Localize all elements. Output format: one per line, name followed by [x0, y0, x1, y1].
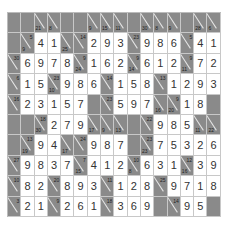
entry-cell[interactable]: 9	[168, 176, 181, 196]
entry-cell[interactable]: 9	[74, 176, 87, 196]
entry-cell[interactable]: 6	[207, 135, 220, 155]
entry-cell[interactable]: 6	[74, 197, 87, 217]
entry-cell[interactable]: 9	[35, 54, 48, 74]
entry-cell[interactable]: 1	[88, 197, 101, 217]
entry-cell[interactable]: 7	[114, 135, 127, 155]
entry-cell[interactable]: 8	[141, 74, 154, 94]
clue-cell: 20	[48, 176, 61, 196]
entry-cell[interactable]: 3	[194, 156, 207, 176]
entry-cell[interactable]: 6	[141, 156, 154, 176]
entry-cell[interactable]: 2	[114, 54, 127, 74]
entry-cell[interactable]: 1	[21, 74, 34, 94]
entry-cell[interactable]: 9	[101, 33, 114, 53]
entry-cell[interactable]: 2	[48, 115, 61, 135]
entry-cell[interactable]: 7	[141, 95, 154, 115]
entry-cell[interactable]: 8	[61, 176, 74, 196]
entry-cell[interactable]: 9	[61, 74, 74, 94]
entry-cell[interactable]: 7	[74, 95, 87, 115]
entry-cell[interactable]: 1	[181, 95, 194, 115]
entry-cell[interactable]: 3	[114, 197, 127, 217]
entry-cell[interactable]: 1	[207, 33, 220, 53]
entry-cell[interactable]: 8	[141, 176, 154, 196]
entry-cell[interactable]: 1	[194, 176, 207, 196]
entry-cell[interactable]: 2	[181, 74, 194, 94]
entry-cell[interactable]: 5	[194, 197, 207, 217]
entry-cell[interactable]: 2	[61, 197, 74, 217]
entry-cell[interactable]: 6	[128, 197, 141, 217]
clue-cell: 14	[101, 74, 114, 94]
entry-cell[interactable]: 3	[181, 135, 194, 155]
entry-cell[interactable]: 1	[114, 176, 127, 196]
entry-cell[interactable]: 1	[101, 156, 114, 176]
entry-cell[interactable]: 7	[181, 176, 194, 196]
entry-cell[interactable]: 7	[61, 156, 74, 176]
entry-cell[interactable]: 8	[74, 74, 87, 94]
entry-cell[interactable]: 1	[48, 95, 61, 115]
entry-cell[interactable]: 8	[154, 33, 167, 53]
entry-cell[interactable]: 9	[128, 95, 141, 115]
entry-cell[interactable]: 9	[181, 197, 194, 217]
entry-cell[interactable]: 7	[194, 54, 207, 74]
entry-cell[interactable]: 8	[21, 176, 34, 196]
clue-cell: 11	[101, 176, 114, 196]
entry-cell[interactable]: 3	[114, 33, 127, 53]
entry-cell[interactable]: 7	[61, 115, 74, 135]
entry-cell[interactable]: 8	[194, 95, 207, 115]
entry-cell[interactable]: 5	[61, 95, 74, 115]
entry-cell[interactable]: 5	[181, 115, 194, 135]
entry-cell[interactable]: 4	[194, 33, 207, 53]
entry-cell[interactable]: 1	[114, 74, 127, 94]
entry-cell[interactable]: 1	[35, 197, 48, 217]
entry-cell[interactable]: 8	[35, 156, 48, 176]
entry-cell[interactable]: 2	[128, 176, 141, 196]
entry-cell[interactable]: 9	[141, 197, 154, 217]
entry-cell[interactable]: 2	[207, 54, 220, 74]
entry-cell[interactable]: 4	[48, 135, 61, 155]
entry-cell[interactable]: 8	[101, 135, 114, 155]
entry-cell[interactable]: 5	[168, 135, 181, 155]
entry-cell[interactable]: 6	[101, 54, 114, 74]
entry-cell[interactable]: 3	[35, 95, 48, 115]
clue-cell: 6	[8, 74, 21, 94]
entry-cell[interactable]: 1	[88, 54, 101, 74]
entry-cell[interactable]: 4	[88, 156, 101, 176]
entry-cell[interactable]: 1	[48, 33, 61, 53]
clue-cell: 16	[154, 95, 167, 115]
entry-cell[interactable]: 9	[154, 115, 167, 135]
entry-cell[interactable]: 2	[114, 156, 127, 176]
entry-cell[interactable]: 1	[168, 74, 181, 94]
entry-cell[interactable]: 7	[154, 135, 167, 155]
entry-cell[interactable]: 5	[35, 74, 48, 94]
entry-cell[interactable]: 3	[154, 156, 167, 176]
entry-cell[interactable]: 3	[48, 156, 61, 176]
entry-cell[interactable]: 9	[21, 156, 34, 176]
entry-cell[interactable]: 3	[88, 176, 101, 196]
entry-cell[interactable]: 9	[194, 74, 207, 94]
entry-cell[interactable]: 8	[207, 176, 220, 196]
block-cell	[8, 33, 21, 53]
entry-cell[interactable]: 8	[168, 115, 181, 135]
entry-cell[interactable]: 2	[21, 197, 34, 217]
entry-cell[interactable]: 7	[48, 54, 61, 74]
entry-cell[interactable]: 5	[128, 74, 141, 94]
entry-cell[interactable]: 6	[88, 74, 101, 94]
entry-cell[interactable]: 2	[88, 33, 101, 53]
entry-cell[interactable]: 9	[74, 115, 87, 135]
entry-cell[interactable]: 3	[207, 74, 220, 94]
entry-cell[interactable]: 9	[141, 33, 154, 53]
entry-cell[interactable]: 1	[168, 156, 181, 176]
entry-cell[interactable]: 9	[207, 156, 220, 176]
entry-cell[interactable]: 2	[194, 135, 207, 155]
entry-cell[interactable]: 6	[141, 54, 154, 74]
entry-cell[interactable]: 2	[35, 176, 48, 196]
entry-cell[interactable]: 2	[168, 54, 181, 74]
entry-cell[interactable]: 2	[21, 95, 34, 115]
entry-cell[interactable]: 1	[154, 54, 167, 74]
entry-cell[interactable]: 6	[168, 33, 181, 53]
entry-cell[interactable]: 4	[35, 33, 48, 53]
entry-cell[interactable]: 6	[21, 54, 34, 74]
entry-cell[interactable]: 8	[61, 54, 74, 74]
entry-cell[interactable]: 9	[88, 135, 101, 155]
entry-cell[interactable]: 9	[35, 135, 48, 155]
entry-cell[interactable]: 5	[114, 95, 127, 115]
